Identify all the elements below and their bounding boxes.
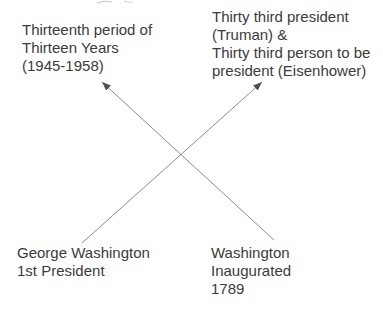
label-line: 1789 [211,280,291,298]
label-line: Thirteenth period of [22,21,152,39]
arrow-bottom-right-label-to-top-left-label [102,82,274,240]
label-bottom-left: George Washington 1st President [17,244,150,280]
label-top-left: Thirteenth period of Thirteen Years (194… [22,21,152,75]
label-line: Thirty third person to be [212,44,370,62]
label-line: Thirteen Years [22,39,152,57]
label-line: Thirty third president [212,8,370,26]
cropped-text-artifact [97,1,112,3]
label-line: George Washington [17,244,150,262]
label-line: Inaugurated [211,262,291,280]
label-line: 1st President [17,262,150,280]
cropped-text-artifact [124,1,133,2]
label-bottom-right: Washington Inaugurated 1789 [211,244,291,298]
label-line: (1945-1958) [22,57,152,75]
arrow-bottom-left-label-to-top-right-label [82,82,262,243]
diagram-canvas: Thirteenth period of Thirteen Years (194… [0,0,383,312]
label-top-right: Thirty third president (Truman) & Thirty… [212,8,370,80]
label-line: Washington [211,244,291,262]
label-line: president (Eisenhower) [212,62,370,80]
label-line: (Truman) & [212,26,370,44]
